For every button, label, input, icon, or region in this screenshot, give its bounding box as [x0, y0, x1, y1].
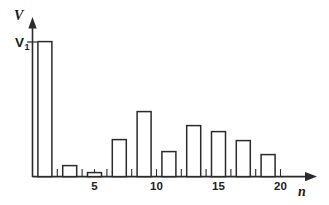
bar-n-17	[236, 141, 250, 177]
bar-n-15	[212, 132, 226, 177]
bar-n-9	[137, 112, 151, 177]
bar-n-7	[112, 140, 126, 177]
x-axis-title: n	[298, 184, 306, 199]
x-axis-tick-label: 20	[274, 180, 287, 192]
bar-n-5	[88, 173, 102, 177]
bar-n-11	[162, 152, 176, 177]
bar-n-19	[261, 155, 275, 177]
bar-chart-figure: V V 1 n 5101520	[0, 0, 329, 205]
x-axis-tick-label: 10	[150, 180, 163, 192]
v1-label-subscript: 1	[25, 42, 30, 52]
x-axis-tick-label: 5	[91, 180, 98, 192]
bar-n-1	[38, 42, 52, 177]
x-axis-tick-label: 15	[212, 180, 225, 192]
harmonic-spectrum-plot: V V 1 n 5101520	[0, 0, 329, 205]
bar-n-13	[187, 126, 201, 177]
v1-label-main: V	[15, 35, 24, 50]
bar-n-3	[63, 166, 77, 177]
